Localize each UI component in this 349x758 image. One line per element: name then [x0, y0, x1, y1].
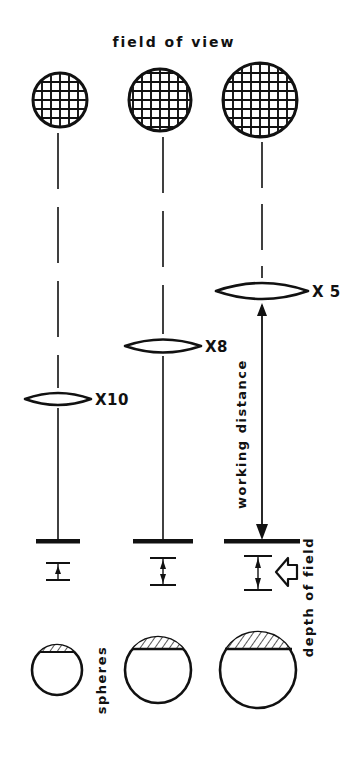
field-of-view-circle-2: [115, 55, 205, 145]
dof-arrowhead-1: [55, 566, 61, 574]
field-of-view-group: [24, 46, 314, 154]
sphere-2: [125, 637, 191, 703]
spheres-label: spheres: [94, 646, 109, 715]
field-of-view-circle-3: [206, 46, 314, 154]
depth-of-field-gauge-1: [46, 563, 70, 580]
dof-arrowhead-bottom-3: [255, 578, 261, 588]
optical-axis-dashed-lines: [58, 133, 262, 388]
sphere-3: [220, 632, 296, 708]
lens-label-x10: X10: [95, 391, 129, 409]
field-of-view-circle-1: [24, 64, 96, 136]
lens-group: X10 X8 X 5: [25, 283, 341, 409]
depth-of-field-gauge-2: [150, 558, 176, 585]
lens-x10: [25, 393, 91, 405]
lens-label-x5: X 5: [312, 283, 341, 301]
page-title: field of view: [112, 34, 235, 50]
depth-of-field-gauge-3: [244, 556, 272, 590]
working-distance-arrowhead-down: [256, 524, 268, 540]
depth-of-field-label: depth of field: [301, 537, 316, 657]
optical-magnification-diagram: field of view X10: [0, 0, 349, 758]
lens-x5: [216, 283, 308, 299]
lens-x8: [125, 340, 201, 353]
specimen-bar-2: [133, 539, 193, 544]
sphere-cap-2: [125, 637, 191, 649]
spheres-group: spheres: [32, 632, 296, 714]
specimen-plane-group: [36, 539, 300, 544]
specimen-bar-3: [224, 539, 300, 544]
working-distance-arrowhead-up: [257, 303, 267, 316]
sphere-cap-3: [220, 632, 296, 649]
depth-of-field-pointer-icon: [276, 558, 297, 586]
dof-arrowhead-top-2: [160, 560, 166, 569]
dof-arrowhead-top-3: [255, 558, 261, 568]
working-distance-label: working distance: [234, 359, 249, 509]
dof-arrowhead-bottom-2: [160, 574, 166, 583]
lens-label-x8: X8: [205, 338, 228, 356]
fov-grid-1: [24, 64, 96, 136]
sphere-cap-hatch-3: [220, 632, 296, 649]
diagram-canvas: field of view X10: [0, 0, 349, 758]
specimen-bar-1: [36, 539, 80, 544]
sphere-1: [32, 645, 82, 695]
sphere-cap-hatch-2: [125, 637, 191, 649]
